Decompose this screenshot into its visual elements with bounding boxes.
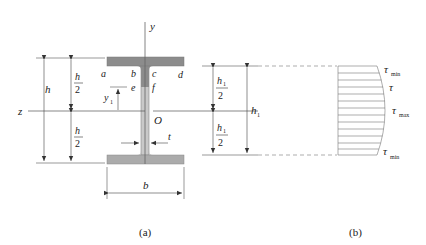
half-height-lower-denominator: 2: [75, 138, 80, 149]
tau-max-subscript: max: [399, 112, 409, 118]
half-height-upper-numerator: h: [75, 71, 80, 82]
flange-width-label: b: [143, 179, 149, 191]
y-axis-label: y: [149, 20, 155, 32]
top-flange: [107, 57, 184, 66]
point-f-label: f: [152, 82, 156, 93]
height-label: h: [45, 83, 51, 95]
svg-text:1: 1: [223, 81, 226, 87]
point-c-label: c: [152, 68, 157, 79]
tau-min-top-label: τ: [384, 63, 389, 75]
i-beam-cross-section: [107, 57, 184, 164]
point-a-label: a: [101, 68, 106, 79]
caption-b: (b): [349, 226, 362, 239]
z-axis-label: z: [17, 105, 23, 117]
svg-text:1: 1: [223, 128, 226, 134]
tau-min-bottom-subscript: min: [390, 154, 399, 160]
caption-a: (a): [139, 226, 152, 239]
point-b-label: b: [131, 68, 136, 79]
half-h1-lower-numerator: h: [217, 122, 222, 133]
half-h1-upper-denominator: 2: [218, 90, 223, 101]
y1-label: y: [103, 92, 109, 103]
i-beam-shear-stress-diagram: y z O a b c d e f h h 2 h 2 y 1 t b (a) …: [0, 0, 426, 245]
thickness-label: t: [168, 131, 171, 142]
tau-min-top-subscript: min: [391, 71, 400, 77]
shear-stress-distribution: [338, 66, 385, 155]
origin-label: O: [154, 114, 162, 126]
half-h1-lower-denominator: 2: [218, 137, 223, 148]
tau-max-label: τ: [392, 104, 397, 116]
svg-text:1: 1: [257, 112, 260, 118]
y1-subscript: 1: [110, 99, 113, 105]
bottom-flange: [107, 155, 184, 164]
tau-label: τ: [389, 81, 394, 93]
tau-min-bottom-label: τ: [383, 145, 388, 157]
point-d-label: d: [178, 69, 184, 80]
half-height-lower-numerator: h: [75, 125, 80, 136]
half-height-upper-denominator: 2: [75, 84, 80, 95]
point-e-label: e: [131, 82, 136, 93]
half-h1-upper-numerator: h: [217, 75, 222, 86]
